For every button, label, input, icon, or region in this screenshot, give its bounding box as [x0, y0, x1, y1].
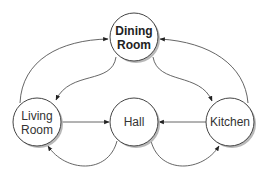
edge-dining-to-living: [56, 57, 116, 100]
room-transition-diagram: Dining Room Living Room Hall Kitchen: [0, 0, 269, 185]
edge-kitchen-to-dining: [160, 39, 248, 103]
node-hall: Hall: [110, 98, 160, 148]
node-dining-room: Dining Room: [110, 13, 160, 63]
edge-hall-to-kitchen: [151, 141, 219, 166]
node-kitchen: Kitchen: [206, 98, 256, 148]
node-label-line-2: Room: [21, 123, 53, 137]
node-label-line-1: Dining: [115, 24, 152, 38]
edge-hall-to-living: [48, 141, 117, 166]
node-label-line-1: Living: [21, 109, 52, 123]
node-living-room: Living Room: [13, 98, 63, 148]
edge-living-to-dining: [20, 39, 108, 103]
node-label-line-1: Hall: [124, 115, 145, 129]
node-label-line-1: Kitchen: [210, 115, 250, 129]
edge-dining-to-kitchen: [153, 57, 212, 101]
node-label-line-2: Room: [117, 38, 151, 52]
